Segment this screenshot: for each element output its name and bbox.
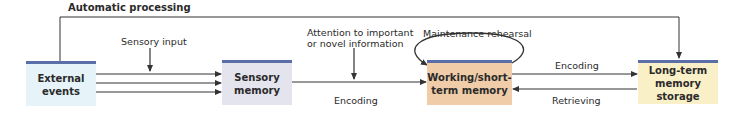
working-memory-line1: Working/short- (427, 71, 511, 84)
attention-label-line2: or novel information (307, 38, 403, 49)
working-memory-box: Working/short- term memory (427, 60, 512, 105)
attention-label: Attention to important or novel informat… (307, 27, 403, 49)
attention-label-line1: Attention to important (307, 27, 403, 38)
external-events-box: External events (26, 61, 96, 106)
external-events-line2: events (37, 85, 84, 98)
sensory-memory-box: Sensory memory (222, 60, 292, 105)
maintenance-rehearsal-label: Maintenance rehearsal (423, 28, 532, 39)
retrieving-label: Retrieving (552, 95, 600, 106)
automatic-processing-label: Automatic processing (68, 2, 191, 13)
long-term-memory-box: Long-term memory storage (638, 60, 718, 104)
sensory-memory-line2: memory (234, 84, 280, 97)
external-events-line1: External (37, 72, 84, 85)
sensory-memory-line1: Sensory (234, 71, 280, 84)
long-term-memory-line2: memory storage (638, 77, 718, 103)
long-term-memory-line1: Long-term (638, 64, 718, 77)
encoding-label-2: Encoding (555, 60, 599, 71)
working-memory-line2: term memory (427, 84, 511, 97)
sensory-input-label: Sensory input (121, 36, 187, 47)
encoding-label-1: Encoding (334, 95, 378, 106)
